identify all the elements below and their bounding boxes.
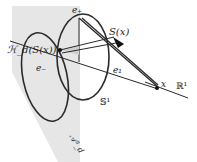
label-circle-s1: 𝕊¹ (100, 98, 110, 107)
x-point (155, 86, 159, 90)
diagram-canvas (0, 0, 197, 162)
label-stereo-point: S(x) (109, 27, 129, 37)
h-point (58, 48, 62, 52)
label-point-x: x (161, 80, 166, 89)
label-hyperplane-point: ℋ_d(S(x)) (7, 45, 57, 55)
label-e-plus: e₊ (72, 6, 82, 15)
label-e-one: e₁ (113, 66, 122, 75)
label-real-line: ℝ¹ (176, 82, 187, 91)
label-e-minus: e₋ (36, 64, 46, 73)
